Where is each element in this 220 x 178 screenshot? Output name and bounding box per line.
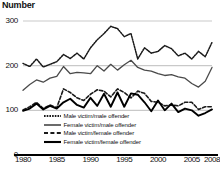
x-tick-1980: 1980 (10, 155, 36, 164)
series-dotted (23, 26, 212, 67)
y-tick-100: 100 (0, 105, 18, 114)
legend-item-female-female: Female victim/female offender (44, 138, 141, 147)
y-tick-300: 300 (0, 16, 18, 25)
x-tick-1995: 1995 (111, 155, 137, 164)
x-tick-1990: 1990 (78, 155, 104, 164)
legend-key-dotted (44, 112, 61, 120)
x-tick-2000: 2000 (145, 155, 171, 164)
x-tick-1985: 1985 (44, 155, 70, 164)
y-tick-200: 200 (0, 61, 18, 70)
series-solid-thin (23, 60, 212, 90)
legend-label: Female victim/male offender (64, 121, 137, 130)
plot-area (0, 0, 220, 178)
series-lines (23, 26, 212, 115)
x-tick-2008: 2008 (199, 155, 220, 164)
legend-label: Male victim/male offender (64, 112, 130, 121)
legend-item-male-female: Male victim/female offender (44, 129, 141, 138)
gridlines (23, 21, 212, 110)
legend-key-solid-thick (44, 138, 61, 146)
legend-label: Female victim/female offender (64, 138, 141, 147)
chart-legend: Male victim/male offender Female victim/… (44, 112, 141, 146)
chart-svg (0, 0, 220, 178)
legend-key-dashed (44, 129, 61, 137)
legend-item-female-male: Female victim/male offender (44, 121, 141, 130)
legend-label: Male victim/female offender (64, 129, 135, 138)
legend-key-solid-thin (44, 121, 61, 129)
legend-item-male-male: Male victim/male offender (44, 112, 141, 121)
chart-figure: Number 0100200300 1980198519901995200020… (0, 0, 220, 178)
